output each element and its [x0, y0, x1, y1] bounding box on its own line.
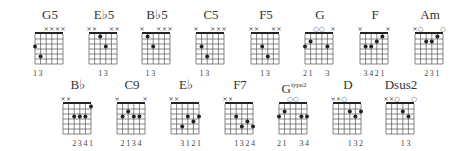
- finger-number: 3: [150, 69, 156, 78]
- finger-dot: [435, 35, 439, 39]
- chord-name: D: [328, 78, 368, 92]
- chord-diagram: D××○132: [328, 78, 368, 150]
- fingering: 2341: [58, 139, 98, 148]
- finger-dot: [277, 115, 281, 119]
- chord-name: C5: [191, 8, 231, 22]
- fingering: 13: [30, 69, 70, 78]
- chord-name: Am: [410, 8, 450, 22]
- fretboard-grid: [63, 104, 91, 134]
- chord-diagram: G○○×213: [300, 8, 340, 80]
- finger-number: 3: [38, 69, 44, 78]
- finger-number: 3: [265, 69, 271, 78]
- fingering: 213: [300, 69, 340, 78]
- finger-dot: [266, 55, 270, 59]
- chord-name: B♭: [58, 78, 98, 92]
- finger-number: 1: [196, 139, 202, 148]
- finger-number: 4: [304, 139, 310, 148]
- chord-name: C9: [112, 78, 152, 92]
- finger-dot: [359, 110, 363, 114]
- finger-dot: [132, 115, 136, 119]
- finger-dot: [121, 115, 125, 119]
- chord-name: F5: [246, 8, 286, 22]
- finger-number: 3: [204, 69, 210, 78]
- finger-dot: [251, 125, 255, 129]
- fingering: 13: [191, 69, 231, 78]
- fingering: 2134: [274, 139, 314, 148]
- chord-name: E♭: [166, 78, 206, 92]
- finger-dot: [191, 120, 195, 124]
- finger-dot: [72, 115, 76, 119]
- finger-dot: [325, 45, 329, 49]
- finger-number: 1: [308, 69, 314, 78]
- chord-name: G: [300, 8, 340, 22]
- chord-diagram: B♭××2341: [58, 78, 98, 150]
- finger-dot: [430, 40, 434, 44]
- chord-variant-label: type2: [291, 81, 307, 89]
- finger-dot: [104, 45, 108, 49]
- chord-diagram: F7××1324: [220, 78, 260, 150]
- finger-dot: [305, 115, 309, 119]
- finger-dot: [146, 35, 150, 39]
- chord-diagram: C5××××13: [191, 8, 231, 80]
- finger-dot: [151, 45, 155, 49]
- finger-dot: [33, 45, 37, 49]
- finger-dot: [186, 115, 190, 119]
- finger-number: 1: [88, 139, 94, 148]
- finger-dot: [283, 110, 287, 114]
- chord-name: B♭5: [137, 8, 177, 22]
- finger-number: 4: [250, 139, 256, 148]
- fingering: 13: [381, 139, 421, 148]
- finger-number: 1: [434, 69, 440, 78]
- fretboard-grid: [305, 34, 333, 64]
- finger-dot: [353, 115, 357, 119]
- finger-dot: [78, 115, 82, 119]
- finger-dot: [98, 35, 102, 39]
- fretboard-grid: [196, 34, 224, 64]
- finger-dot: [260, 45, 264, 49]
- finger-dot: [180, 125, 184, 129]
- chord-name: F: [355, 8, 395, 22]
- fretboard-grid: [35, 34, 63, 64]
- finger-dot: [375, 40, 379, 44]
- finger-number: 3: [103, 69, 109, 78]
- chord-diagram: F5××××13: [246, 8, 286, 80]
- fingering: 3121: [166, 139, 206, 148]
- finger-dot: [348, 110, 352, 114]
- finger-dot: [401, 110, 405, 114]
- chord-diagram: Am×○○231: [410, 8, 450, 80]
- fretboard-grid: [360, 34, 388, 64]
- finger-dot: [83, 115, 87, 119]
- finger-dot: [406, 115, 410, 119]
- finger-dot: [39, 55, 43, 59]
- chord-diagram: C9××2134: [112, 78, 152, 150]
- fretboard-grid: [171, 104, 199, 134]
- chord-diagram: Dsus2××○○13: [381, 78, 421, 150]
- chord-name: E♭5: [84, 8, 124, 22]
- fingering: 1324: [220, 139, 260, 148]
- chord-diagram: Gtype2○○2134: [274, 78, 314, 150]
- finger-number: 3: [324, 69, 330, 78]
- finger-dot: [197, 115, 201, 119]
- fingering: 132: [328, 139, 368, 148]
- fingering: 2134: [112, 139, 152, 148]
- finger-dot: [299, 115, 303, 119]
- finger-dot: [200, 45, 204, 49]
- chord-name: G5: [30, 8, 70, 22]
- chord-diagram: E♭5××××13: [84, 8, 124, 80]
- fretboard-grid: [386, 104, 414, 134]
- chord-diagram: B♭5××××13: [137, 8, 177, 80]
- finger-dot: [303, 45, 307, 49]
- chord-name: Gtype2: [274, 78, 314, 96]
- finger-dot: [234, 115, 238, 119]
- fretboard-grid: [415, 34, 443, 64]
- finger-dot: [380, 35, 384, 39]
- finger-dot: [364, 45, 368, 49]
- chord-diagram: E♭××3121: [166, 78, 206, 150]
- finger-dot: [126, 110, 130, 114]
- fretboard-grid: [251, 34, 279, 64]
- finger-dot: [240, 125, 244, 129]
- chord-diagram: G5××××13: [30, 8, 70, 80]
- fingering: 13: [137, 69, 177, 78]
- finger-dot: [205, 55, 209, 59]
- fretboard-grid: [225, 104, 253, 134]
